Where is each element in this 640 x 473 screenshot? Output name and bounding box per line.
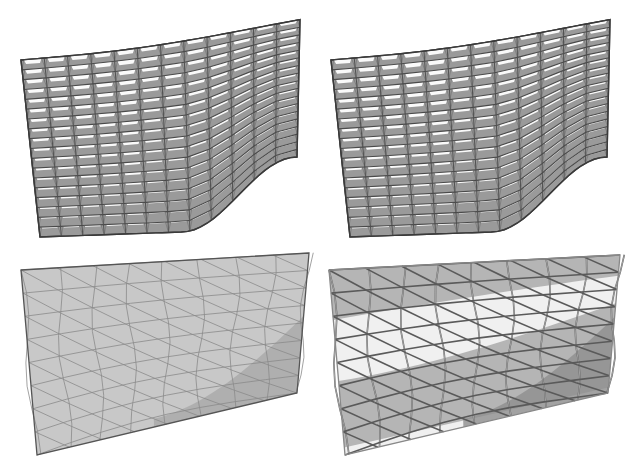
lattice-mesh-illustration — [0, 0, 320, 240]
triangulated-panel-illustration — [320, 240, 640, 473]
panel-bottom-left-triangulated — [0, 240, 320, 473]
panel-top-left-lattice — [0, 0, 320, 240]
panel-top-right-lattice — [320, 0, 640, 240]
triangulated-panel-illustration — [0, 240, 320, 473]
panel-bottom-right-triangulated — [320, 240, 640, 473]
lattice-mesh-illustration — [320, 0, 640, 240]
